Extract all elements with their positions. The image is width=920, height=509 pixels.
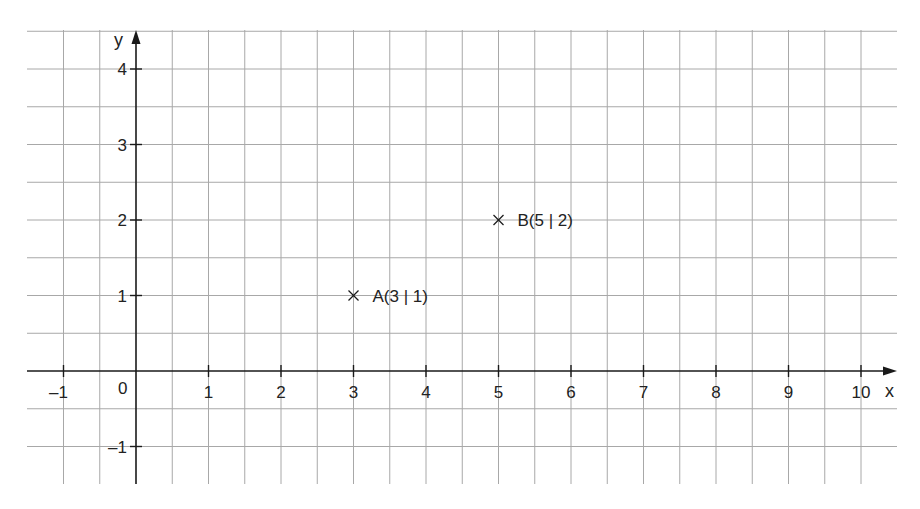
x-tick-label: 10	[852, 383, 871, 402]
y-tick-label: –1	[108, 438, 127, 457]
coordinate-plane: x y 0 –1123456789104321–1 A(3 | 1)B(5 | …	[0, 0, 920, 509]
origin-label: 0	[118, 379, 127, 398]
x-tick-label: 8	[711, 383, 720, 402]
x-tick-label: 5	[494, 383, 503, 402]
x-tick-label: 9	[784, 383, 793, 402]
x-tick-label: 6	[566, 383, 575, 402]
y-tick-label: 1	[118, 287, 127, 306]
x-tick-label: –1	[49, 383, 68, 402]
y-tick-label: 4	[118, 60, 127, 79]
x-axis-arrow-icon	[883, 367, 897, 376]
grid-lines	[27, 30, 897, 484]
y-axis-label: y	[114, 30, 123, 50]
x-tick-label: 1	[204, 383, 213, 402]
x-tick-label: 7	[639, 383, 648, 402]
x-axis-label: x	[885, 381, 894, 401]
y-tick-label: 2	[118, 211, 127, 230]
y-axis-arrow-icon	[132, 30, 141, 44]
point-label: A(3 | 1)	[373, 287, 428, 306]
x-tick-label: 4	[421, 383, 430, 402]
y-tick-label: 3	[118, 136, 127, 155]
x-tick-label: 2	[276, 383, 285, 402]
x-tick-label: 3	[349, 383, 358, 402]
point-label: B(5 | 2)	[518, 211, 573, 230]
